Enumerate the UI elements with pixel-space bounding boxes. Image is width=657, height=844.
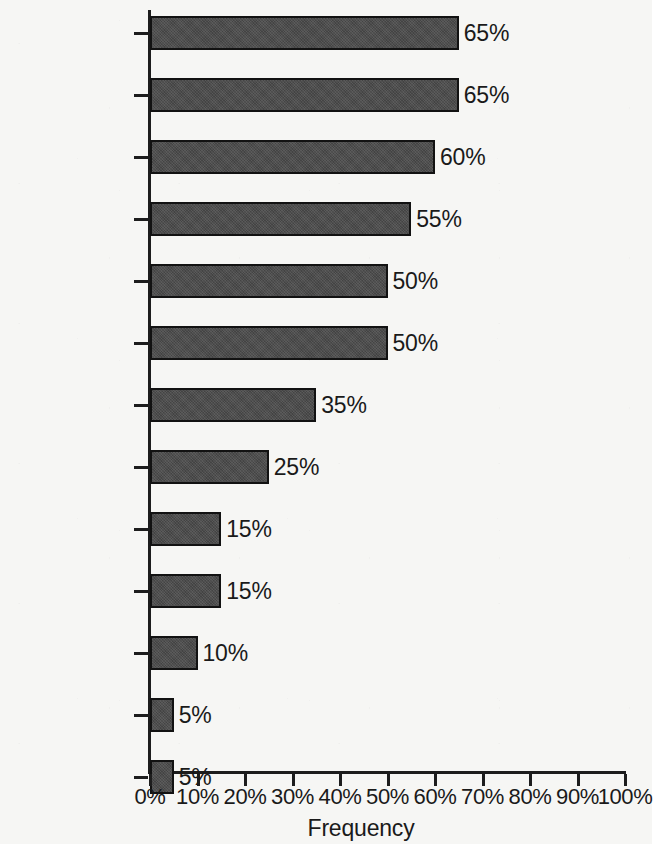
bar-value-label: 50%: [393, 330, 438, 357]
bar-value-label: 50%: [393, 268, 438, 295]
category-tick: [134, 218, 148, 221]
bar: [150, 326, 388, 360]
x-axis-title: Frequency: [0, 815, 652, 842]
bar-value-label: 35%: [321, 392, 366, 419]
bar-value-label: 65%: [464, 82, 509, 109]
bar-value-label: 15%: [226, 516, 271, 543]
category-tick: [134, 714, 148, 717]
category-tick: [134, 280, 148, 283]
category-tick: [134, 652, 148, 655]
bar: [150, 16, 459, 50]
bar: [150, 264, 388, 298]
x-axis-tick-label: 100%: [585, 784, 657, 810]
bar: [150, 698, 174, 732]
bar: [150, 450, 269, 484]
bar-value-label: 65%: [464, 20, 509, 47]
category-tick: [134, 32, 148, 35]
category-tick: [134, 404, 148, 407]
bar-value-label: 15%: [226, 578, 271, 605]
bar: [150, 574, 221, 608]
bar: [150, 202, 411, 236]
bar: [150, 140, 435, 174]
category-tick: [134, 94, 148, 97]
bar-value-label: 25%: [274, 454, 319, 481]
category-tick: [134, 156, 148, 159]
bar: [150, 636, 198, 670]
category-tick: [134, 590, 148, 593]
category-tick: [134, 528, 148, 531]
bar: [150, 78, 459, 112]
bar-value-label: 5%: [179, 702, 212, 729]
category-tick: [134, 466, 148, 469]
bar: [150, 512, 221, 546]
bar-value-label: 60%: [440, 144, 485, 171]
category-tick: [134, 776, 148, 779]
bar-value-label: 10%: [203, 640, 248, 667]
category-tick: [134, 342, 148, 345]
bar: [150, 388, 316, 422]
bar-value-label: 55%: [416, 206, 461, 233]
